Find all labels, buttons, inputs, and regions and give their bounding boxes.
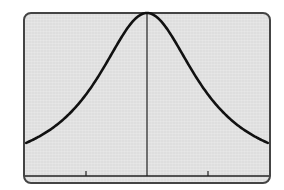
- graph-plot: [0, 0, 284, 190]
